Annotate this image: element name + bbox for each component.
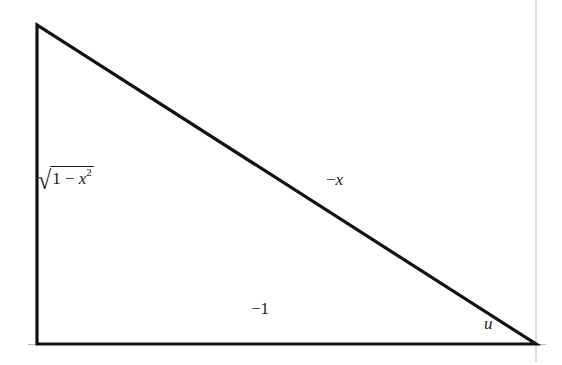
radicand-exponent: 2 xyxy=(86,166,92,178)
radicand: 1 − x2 xyxy=(50,166,94,189)
radicand-prefix: 1 − xyxy=(52,169,79,188)
radical-sign: √ xyxy=(38,166,51,196)
hypotenuse-variable: x xyxy=(336,170,344,189)
vertical-side-label: √1 − x2 xyxy=(38,166,94,194)
hypotenuse-sign: − xyxy=(326,170,336,189)
right-triangle xyxy=(37,25,536,344)
hypotenuse-label: −x xyxy=(326,170,343,190)
angle-label: u xyxy=(484,314,493,334)
base-label: −1 xyxy=(251,299,269,319)
